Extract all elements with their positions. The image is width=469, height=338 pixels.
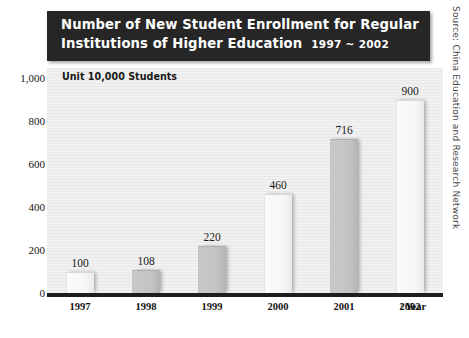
- bar-group: 220: [198, 246, 226, 293]
- chart-title-line-2: Institutions of Higher Education1997 ~ 2…: [61, 36, 389, 51]
- y-axis-tick-label: 600: [3, 158, 45, 170]
- x-axis-caption: / Year: [400, 301, 460, 312]
- y-axis-tick-label: 0: [3, 287, 45, 299]
- unit-note: Unit 10,000 Students: [62, 71, 177, 82]
- bar: [66, 272, 94, 294]
- y-axis-tick-label: 400: [3, 201, 45, 213]
- bar: [396, 100, 424, 294]
- y-axis-tick-label: 200: [3, 244, 45, 256]
- x-axis-tick-label: 1998: [116, 301, 176, 312]
- bar-value-label: 716: [314, 124, 374, 136]
- x-axis-tick-label: 1997: [50, 301, 110, 312]
- y-axis-tick-label: 1,000: [3, 72, 45, 84]
- x-axis-tick-label: 2000: [248, 301, 308, 312]
- source-note: Source: China Education and Research Net…: [447, 6, 461, 266]
- chart-title-year-range: 1997 ~ 2002: [311, 38, 389, 50]
- bar-group: 716: [330, 139, 358, 293]
- bar-value-label: 460: [248, 179, 308, 191]
- bar: [330, 139, 358, 293]
- y-axis-labels: 02004006008001,000: [0, 0, 45, 338]
- bar-value-label: 100: [50, 257, 110, 269]
- bar-value-label: 108: [116, 255, 176, 267]
- chart-title-banner: Number of New Student Enrollment for Reg…: [47, 11, 430, 61]
- bar: [264, 194, 292, 293]
- y-axis-tick-label: 800: [3, 115, 45, 127]
- bar-value-label: 900: [380, 85, 440, 97]
- bar: [198, 246, 226, 293]
- chart-title-line-1: Number of New Student Enrollment for Reg…: [61, 17, 419, 32]
- x-axis-tick-label: 2001: [314, 301, 374, 312]
- bar-group: 460: [264, 194, 292, 293]
- x-axis-line: [47, 293, 443, 297]
- chart-screenshot: Number of New Student Enrollment for Reg…: [0, 0, 469, 338]
- bar-group: 900: [396, 100, 424, 294]
- bar-group: 108: [132, 270, 160, 293]
- x-axis-tick-label: 1999: [182, 301, 242, 312]
- bar-value-label: 220: [182, 231, 242, 243]
- bar: [132, 270, 160, 293]
- bar-group: 100: [66, 272, 94, 294]
- chart-title-line-2-text: Institutions of Higher Education: [61, 36, 302, 51]
